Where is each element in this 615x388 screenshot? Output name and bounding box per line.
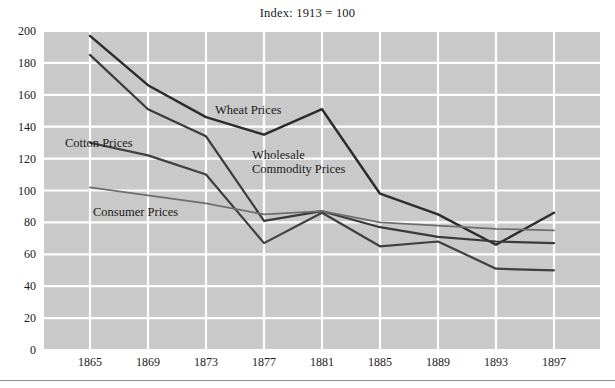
series-label-consumer-prices: Consumer Prices	[93, 205, 178, 219]
y-axis-tick-label: 180	[2, 57, 36, 69]
x-axis-tick-label: 1885	[350, 356, 410, 368]
chart-figure: Index: 1913 = 100 0204060801001201401601…	[0, 0, 615, 388]
y-axis-tick-label: 120	[2, 153, 36, 165]
x-axis-tick-label: 1877	[234, 356, 294, 368]
y-axis-tick-label: 140	[2, 121, 36, 133]
series-label-wholesale-commodity-prices: Wholesale Commodity Prices	[252, 148, 345, 177]
figure-bottom-rule	[0, 380, 615, 381]
y-axis-tick-label: 40	[2, 280, 36, 292]
series-label-cotton-prices: Cotton Prices	[65, 136, 133, 150]
y-axis-tick-label: 0	[2, 344, 36, 356]
series-label-wheat-prices: Wheat Prices	[215, 103, 281, 117]
y-axis-tick-label: 60	[2, 248, 36, 260]
y-axis-tick-label: 20	[2, 312, 36, 324]
x-axis-tick-label: 1873	[176, 356, 236, 368]
y-axis-tick-label: 200	[2, 25, 36, 37]
x-axis-tick-label: 1889	[408, 356, 468, 368]
y-axis-tick-label: 100	[2, 185, 36, 197]
y-axis-tick-label: 160	[2, 89, 36, 101]
x-axis-tick-label: 1865	[60, 356, 120, 368]
chart-title: Index: 1913 = 100	[0, 6, 615, 21]
x-axis-tick-label: 1897	[524, 356, 584, 368]
chart-canvas	[44, 31, 600, 350]
x-axis-tick-label: 1893	[466, 356, 526, 368]
x-axis-tick-label: 1881	[292, 356, 352, 368]
plot-area	[44, 31, 600, 350]
x-axis-tick-label: 1869	[118, 356, 178, 368]
y-axis-tick-label: 80	[2, 216, 36, 228]
